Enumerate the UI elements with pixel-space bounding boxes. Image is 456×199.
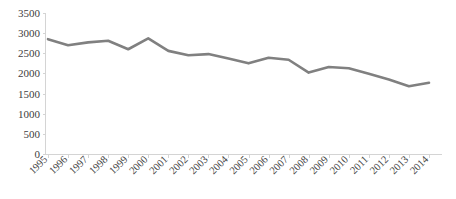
y-tick-label: 500 [24,128,41,140]
x-tick-label: 2009 [308,154,331,177]
x-tick-label: 2001 [147,154,170,177]
x-tick-label: 2007 [267,154,290,177]
x-tick-label: 2011 [348,154,370,176]
x-tick-labels: 1995199619971998199920002001200220032004… [27,153,431,176]
y-tick-label: 3000 [18,27,41,39]
y-tick-label: 2000 [18,67,41,79]
y-tick-label: 2500 [18,47,41,59]
x-tick-label: 2013 [388,154,411,177]
data-series-line [48,38,429,86]
x-tick-label: 1998 [87,154,110,177]
x-tick-label: 2010 [328,154,351,177]
y-tick-label: 3500 [18,7,41,19]
x-tick-label: 2004 [207,153,230,176]
line-chart: 0500100015002000250030003500 19951996199… [0,0,456,199]
x-tick-label: 1996 [47,154,70,177]
y-tick-labels: 0500100015002000250030003500 [18,7,46,160]
x-tick-label: 2014 [408,153,431,176]
x-tick-label: 2005 [227,154,250,177]
chart-canvas: 0500100015002000250030003500 19951996199… [0,0,456,199]
x-tick-label: 1999 [107,154,130,177]
y-tick-label: 1000 [18,108,41,120]
x-tick-label: 1995 [27,154,50,177]
x-tick-label: 2008 [287,154,310,177]
x-tick-label: 2000 [127,154,150,177]
x-tick-label: 2003 [187,154,210,177]
y-tick-label: 1500 [18,88,41,100]
x-tick-label: 2012 [368,154,391,177]
x-tick-label: 2002 [167,154,190,177]
x-tick-label: 1997 [67,154,90,177]
x-tick-label: 2006 [247,154,270,177]
